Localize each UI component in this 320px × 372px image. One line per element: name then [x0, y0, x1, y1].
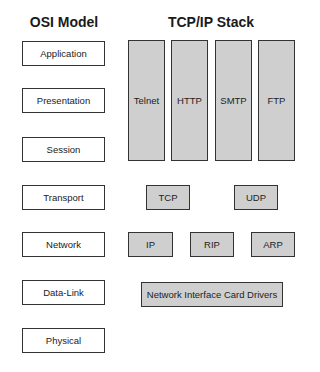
protocol-rip: RIP [190, 232, 234, 257]
protocol-ftp: FTP [258, 40, 295, 161]
protocol-tcp: TCP [146, 185, 190, 210]
osi-layer-application: Application [22, 41, 105, 66]
osi-layer-physical: Physical [22, 328, 105, 353]
nic-drivers: Network Interface Card Drivers [141, 282, 283, 307]
protocol-http: HTTP [171, 40, 208, 161]
osi-layer-network: Network [22, 232, 105, 257]
osi-layer-data-link: Data-Link [22, 280, 105, 305]
protocol-arp: ARP [251, 232, 295, 257]
osi-layer-session: Session [22, 137, 105, 162]
protocol-telnet: Telnet [128, 40, 165, 161]
osi-layer-presentation: Presentation [22, 88, 105, 113]
tcpip-stack-title: TCP/IP Stack [150, 14, 272, 30]
protocol-udp: UDP [234, 185, 278, 210]
protocol-ip: IP [128, 232, 173, 257]
protocol-smtp: SMTP [215, 40, 252, 161]
osi-model-title: OSI Model [22, 14, 106, 30]
osi-layer-transport: Transport [22, 185, 105, 210]
